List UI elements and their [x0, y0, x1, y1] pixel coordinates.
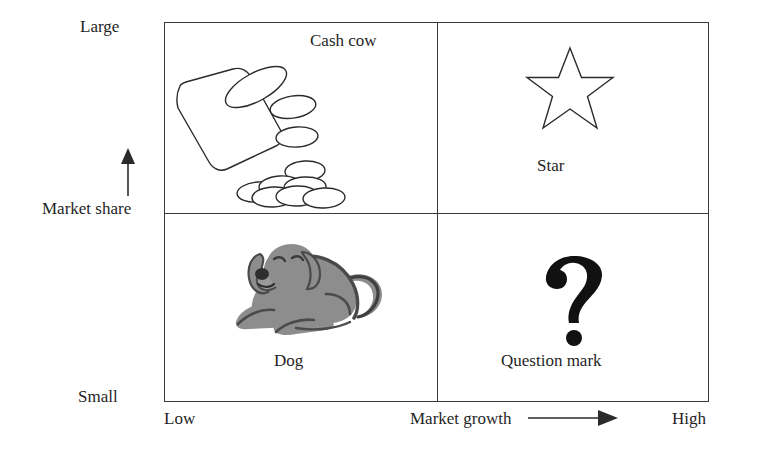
y-axis-bottom-label: Small: [78, 388, 118, 405]
bcg-matrix-diagram: Cash cow Star Dog Question mark Large Sm…: [0, 0, 761, 451]
x-axis-right-label: High: [672, 410, 706, 427]
x-axis-title: Market growth: [410, 410, 512, 427]
quadrant-label-question-mark: Question mark: [501, 352, 602, 369]
quadrant-label-dog: Dog: [274, 352, 303, 369]
bucket-of-coins-icon: [172, 38, 362, 206]
quadrant-label-star: Star: [537, 157, 564, 174]
y-axis-title: Market share: [42, 200, 131, 217]
y-axis-top-label: Large: [80, 18, 119, 35]
right-arrow-icon: [528, 408, 620, 428]
question-mark-icon: [541, 252, 613, 348]
star-icon: [528, 44, 612, 136]
x-axis-left-label: Low: [164, 410, 195, 427]
quadrant-label-cash-cow: Cash cow: [310, 32, 377, 49]
dog-icon: [230, 232, 394, 344]
up-arrow-icon: [119, 148, 137, 196]
